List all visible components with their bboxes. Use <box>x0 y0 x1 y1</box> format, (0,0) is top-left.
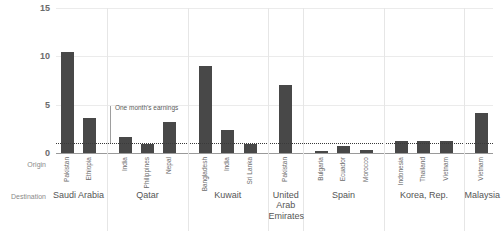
origin-label: Morocco <box>363 157 370 182</box>
plot-area: 051015 One month's earnings <box>56 8 493 153</box>
origin-label: India <box>122 157 129 171</box>
y-axis-tick-label: 10 <box>22 51 50 61</box>
bar <box>360 150 373 153</box>
y-axis-tick-label: 15 <box>22 3 50 13</box>
bar <box>221 130 234 153</box>
row-header-origin: Origin <box>0 161 46 168</box>
bar <box>119 137 132 153</box>
bar <box>475 113 488 153</box>
bar <box>61 52 74 153</box>
destination-label: United Arab Emirates <box>269 190 303 221</box>
origin-label: Vietnam <box>478 157 485 181</box>
origin-label: Vietnam <box>443 157 450 181</box>
origin-label: Pakistan <box>282 157 289 182</box>
bar <box>199 66 212 153</box>
origin-label: Nepal <box>166 157 173 174</box>
origin-label: India <box>224 157 231 171</box>
reference-line <box>56 143 493 144</box>
gridline <box>56 8 493 9</box>
origin-label: Thailand <box>420 157 427 182</box>
chart-container: Origin Destination 051015 One month's ea… <box>0 0 501 234</box>
destination-label: Spain <box>304 190 383 200</box>
reference-line-annotation: One month's earnings <box>115 104 178 111</box>
destination-label: Saudi Arabia <box>50 190 107 200</box>
origin-label: Ecuador <box>340 157 347 181</box>
bar <box>83 118 96 153</box>
bar <box>141 144 154 153</box>
origin-label: Bangladesh <box>202 157 209 191</box>
destination-label: Qatar <box>108 190 187 200</box>
origin-label: Ethiopia <box>86 157 93 181</box>
destination-label: Korea, Rep. <box>384 190 463 200</box>
origin-label: Indonesia <box>398 157 405 185</box>
bar <box>244 144 257 153</box>
axis-baseline <box>56 153 493 154</box>
bar <box>315 151 328 153</box>
origin-label: Pakistan <box>64 157 71 182</box>
y-axis-tick-label: 0 <box>22 148 50 158</box>
bar <box>163 122 176 153</box>
y-axis: 051015 <box>56 8 493 153</box>
origin-label: Bulgaria <box>318 157 325 181</box>
gridline <box>56 56 493 57</box>
origin-label: Philippines <box>144 157 151 188</box>
y-axis-tick-label: 5 <box>22 100 50 110</box>
destination-label: Kuwait <box>188 190 267 200</box>
origin-label: Sri Lanka <box>247 157 254 184</box>
row-header-destination: Destination <box>0 193 46 200</box>
bar <box>337 146 350 153</box>
annotation-leader-line <box>110 106 111 143</box>
destination-label: Malaysia <box>465 190 499 200</box>
